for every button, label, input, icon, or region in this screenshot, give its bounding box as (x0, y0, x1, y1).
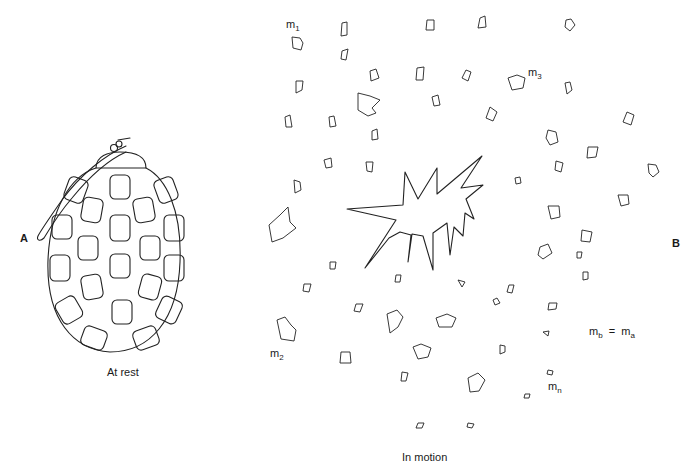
label-m2: m2 (270, 347, 284, 362)
diagram-canvas (0, 0, 683, 472)
label-m3: m3 (528, 66, 542, 81)
equation-mass-conservation: mb = ma (589, 325, 635, 340)
panel-a-letter: A (20, 232, 28, 244)
panel-b-letter: B (672, 237, 680, 249)
panel-a-caption: At rest (107, 366, 139, 378)
explosion-in-motion (269, 16, 659, 428)
grenade-at-rest (37, 138, 184, 352)
panel-b-caption: In motion (402, 451, 447, 463)
label-mn: mn (548, 380, 562, 395)
label-m1: m1 (286, 18, 300, 33)
blast-star (347, 156, 483, 270)
